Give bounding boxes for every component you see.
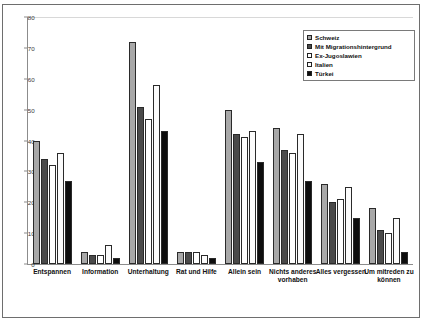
bar bbox=[385, 233, 392, 264]
bar bbox=[249, 131, 256, 264]
bar bbox=[33, 141, 40, 265]
bar bbox=[393, 218, 400, 264]
bar bbox=[81, 252, 88, 264]
legend-swatch bbox=[307, 62, 312, 67]
bar bbox=[225, 110, 232, 264]
bar bbox=[49, 165, 56, 264]
bar bbox=[89, 255, 96, 264]
bar bbox=[329, 202, 336, 264]
bar bbox=[321, 184, 328, 264]
chart-legend: SchweizMit MigrationshintergrundEx-Jugos… bbox=[303, 30, 415, 81]
bar bbox=[377, 230, 384, 264]
bar-group bbox=[28, 17, 76, 264]
bar bbox=[241, 137, 248, 264]
bar bbox=[209, 258, 216, 264]
legend-label: Ex-Jugoslawien bbox=[315, 52, 362, 59]
x-axis-label: Um mitreden zu können bbox=[359, 268, 419, 284]
bar bbox=[353, 218, 360, 264]
bar bbox=[369, 208, 376, 264]
bar bbox=[193, 252, 200, 264]
legend-item: Ex-Jugoslawien bbox=[307, 51, 411, 60]
bar bbox=[289, 153, 296, 264]
bar bbox=[153, 85, 160, 264]
bar bbox=[297, 134, 304, 264]
legend-label: Schweiz bbox=[315, 34, 339, 41]
legend-swatch bbox=[307, 71, 312, 76]
bar bbox=[137, 107, 144, 264]
bar bbox=[345, 187, 352, 264]
bar bbox=[113, 258, 120, 264]
legend-item: Schweiz bbox=[307, 33, 411, 42]
x-axis bbox=[27, 264, 413, 265]
bar bbox=[105, 245, 112, 264]
bar bbox=[65, 181, 72, 264]
bar bbox=[273, 128, 280, 264]
bar bbox=[257, 162, 264, 264]
bar-group bbox=[76, 17, 124, 264]
legend-item: Italien bbox=[307, 60, 411, 69]
bar bbox=[401, 252, 408, 264]
bar bbox=[201, 255, 208, 264]
bar bbox=[57, 153, 64, 264]
bar bbox=[97, 255, 104, 264]
bar bbox=[177, 252, 184, 264]
legend-label: Türkei bbox=[315, 70, 334, 77]
bar-group bbox=[124, 17, 172, 264]
bar bbox=[129, 42, 136, 264]
bar bbox=[305, 181, 312, 264]
legend-swatch bbox=[307, 35, 312, 40]
legend-swatch bbox=[307, 53, 312, 58]
bar-group bbox=[172, 17, 220, 264]
legend-swatch bbox=[307, 44, 312, 49]
bar-chart: 01020304050607080 EntspannenInformationU… bbox=[0, 0, 426, 326]
bar-group bbox=[221, 17, 269, 264]
bar bbox=[337, 199, 344, 264]
legend-label: Mit Migrationshintergrund bbox=[315, 43, 392, 50]
bar bbox=[145, 119, 152, 264]
bar bbox=[233, 134, 240, 264]
legend-item: Türkei bbox=[307, 69, 411, 78]
bar bbox=[281, 150, 288, 264]
bar bbox=[161, 131, 168, 264]
legend-item: Mit Migrationshintergrund bbox=[307, 42, 411, 51]
bar bbox=[185, 252, 192, 264]
legend-label: Italien bbox=[315, 61, 333, 68]
bar bbox=[41, 159, 48, 264]
